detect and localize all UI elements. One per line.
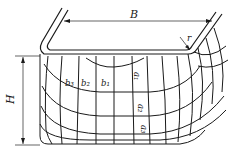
grid-corner-region: [194, 28, 228, 120]
box-outline: [40, 54, 205, 144]
label-b3: b₃: [65, 78, 74, 88]
label-b2: b₂: [81, 78, 90, 88]
box-drawing-diagram: B r H: [0, 0, 234, 150]
label-B: B: [129, 8, 138, 21]
label-a3: a₃: [139, 125, 149, 134]
label-a1: a₁: [132, 72, 142, 80]
label-a2: a₂: [136, 104, 146, 113]
label-b1: b₁: [101, 78, 110, 88]
label-H: H: [4, 94, 17, 105]
label-r: r: [187, 33, 192, 43]
dimension-H: [15, 56, 40, 145]
grid-vertical-lines: [45, 54, 192, 144]
